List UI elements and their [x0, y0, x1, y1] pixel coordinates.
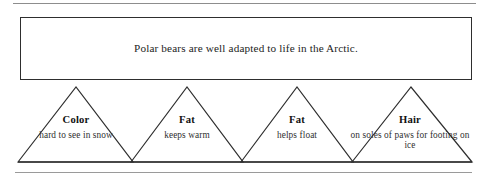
triangle-description-0: hard to see in snow	[20, 130, 132, 141]
triangle-label-2: Fat helps float	[241, 114, 353, 140]
top-horizontal-rule	[13, 3, 476, 4]
triangle-label-3: Hair on soles of paws for footing on ice	[350, 114, 470, 151]
statement-box: Polar bears are well adapted to life in …	[20, 17, 472, 80]
triangle-description-3: on soles of paws for footing on ice	[350, 130, 470, 152]
statement-text: Polar bears are well adapted to life in …	[134, 42, 358, 55]
triangle-title-2: Fat	[241, 114, 353, 127]
triangle-band: Color hard to see in snow Fat keeps warm…	[0, 82, 485, 168]
triangle-description-2: helps float	[241, 130, 353, 141]
triangle-title-1: Fat	[131, 114, 243, 127]
triangle-description-1: keeps warm	[131, 130, 243, 141]
triangle-title-0: Color	[20, 114, 132, 127]
diagram-page: Polar bears are well adapted to life in …	[0, 0, 485, 180]
triangle-label-0: Color hard to see in snow	[20, 114, 132, 140]
triangle-title-3: Hair	[350, 114, 470, 127]
triangle-label-1: Fat keeps warm	[131, 114, 243, 140]
bottom-horizontal-rule	[15, 172, 472, 173]
